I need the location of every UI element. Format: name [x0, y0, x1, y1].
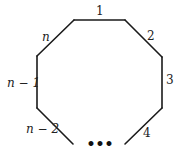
- edge-label-n-minus-2: n − 2: [26, 122, 59, 136]
- edge-label-2: 2: [147, 29, 155, 43]
- ellipsis: •••: [87, 136, 114, 151]
- edge-label-n: n: [42, 30, 50, 44]
- edge-label-1: 1: [96, 4, 104, 18]
- edge-2: [125, 20, 162, 57]
- edge-label-4: 4: [143, 126, 151, 140]
- edge-label-n-minus-1: n − 1: [7, 76, 40, 90]
- edge-label-3: 3: [166, 73, 174, 87]
- polygon-diagram: 1 2 3 4 n n − 1 n − 2 •••: [0, 0, 179, 151]
